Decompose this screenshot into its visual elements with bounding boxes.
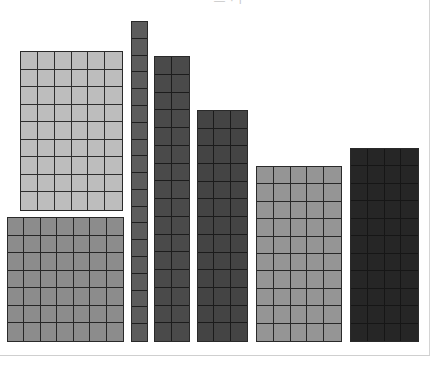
grid-cell	[214, 217, 230, 235]
grid-cell	[107, 271, 123, 289]
grid-cell	[8, 323, 24, 341]
grid-cell	[132, 291, 147, 308]
grid-cell	[90, 253, 106, 271]
grid-cell	[155, 75, 172, 93]
grid-cell	[132, 56, 147, 73]
grid-cell	[172, 217, 189, 235]
grid-cell	[324, 254, 341, 271]
grid-cell	[307, 306, 324, 323]
grid-cell	[172, 288, 189, 306]
grid-cell	[88, 87, 105, 105]
grid-cell	[291, 219, 308, 236]
grid-cell	[155, 57, 172, 75]
grid-cell	[21, 140, 38, 158]
grid-cell	[324, 306, 341, 323]
grid-cell	[155, 235, 172, 253]
grid-cell	[324, 202, 341, 219]
grid-cell	[351, 184, 368, 201]
grid-cell	[385, 271, 402, 288]
grid-cell	[214, 111, 230, 129]
grid-cell	[24, 288, 40, 306]
grid-cell	[155, 306, 172, 324]
grid-cell	[38, 52, 55, 70]
grid-cell	[132, 140, 147, 157]
grid-cell	[324, 184, 341, 201]
grid-cell	[172, 270, 189, 288]
grid-cell	[172, 128, 189, 146]
grid-cell	[172, 306, 189, 324]
grid-cell	[231, 323, 247, 341]
grid-cell	[55, 122, 72, 140]
grid-cell	[257, 184, 274, 201]
grid-cell	[198, 235, 214, 253]
grid-cell	[231, 164, 247, 182]
grid-cell	[41, 323, 57, 341]
grid-cell	[214, 270, 230, 288]
grid-cell	[155, 110, 172, 128]
grid-cell	[72, 175, 89, 193]
grid-cell	[324, 289, 341, 306]
grid-cell	[74, 288, 90, 306]
grid-cell	[274, 324, 291, 341]
grid-cell	[107, 288, 123, 306]
grid-cell	[155, 164, 172, 182]
grid-cell	[8, 288, 24, 306]
grid-cell	[132, 173, 147, 190]
grid-cell	[172, 235, 189, 253]
grid-cell	[132, 123, 147, 140]
grid-cell	[401, 166, 418, 183]
grid-cell	[385, 324, 402, 341]
grid-cell	[231, 129, 247, 147]
grid-cell	[198, 288, 214, 306]
grid-cell	[257, 237, 274, 254]
grid-cell	[385, 254, 402, 271]
grid-cell	[231, 253, 247, 271]
grid-cell	[72, 140, 89, 158]
grid-cell	[401, 149, 418, 166]
grid-cell	[155, 181, 172, 199]
grid-cell	[72, 105, 89, 123]
grid-cell	[88, 70, 105, 88]
grid-cell	[21, 105, 38, 123]
grid-cell	[24, 253, 40, 271]
grid-cell	[172, 199, 189, 217]
grid-cell	[307, 271, 324, 288]
grid-cell	[21, 87, 38, 105]
grid-cell	[214, 253, 230, 271]
grid-cell	[90, 218, 106, 236]
grid-cell	[107, 306, 123, 324]
grid-cell	[257, 219, 274, 236]
grid-cell	[38, 70, 55, 88]
grid-cell	[55, 157, 72, 175]
grid-cell	[155, 252, 172, 270]
grid-cell	[385, 306, 402, 323]
grid-column-2x16	[154, 56, 190, 342]
grid-cell	[38, 105, 55, 123]
grid-cell	[368, 271, 385, 288]
grid-cell	[105, 87, 122, 105]
grid-cell	[55, 175, 72, 193]
grid-cell	[105, 122, 122, 140]
grid-cell	[74, 236, 90, 254]
grid-cell	[105, 192, 122, 210]
grid-cell	[172, 57, 189, 75]
grid-cell	[132, 156, 147, 173]
grid-cell	[198, 111, 214, 129]
grid-cell	[401, 306, 418, 323]
grid-cell	[24, 323, 40, 341]
grid-cell	[231, 182, 247, 200]
grid-cell	[214, 323, 230, 341]
grid-cell	[8, 306, 24, 324]
grid-cell	[401, 324, 418, 341]
grid-cell	[291, 289, 308, 306]
grid-cell	[172, 110, 189, 128]
grid-cell	[132, 240, 147, 257]
grid-cell	[257, 202, 274, 219]
grid-cell	[368, 306, 385, 323]
grid-cell	[105, 105, 122, 123]
grid-cell	[231, 111, 247, 129]
grid-cell	[368, 289, 385, 306]
grid-cell	[198, 164, 214, 182]
grid-cell	[307, 167, 324, 184]
grid-cell	[132, 223, 147, 240]
